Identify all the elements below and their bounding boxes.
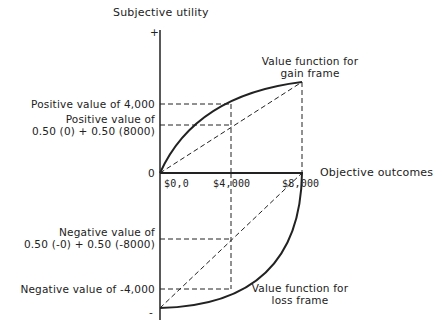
x-tick-0: $0,0 (164, 178, 189, 190)
label-negative-avg-1: Negative value of (59, 226, 155, 238)
label-positive-4000: Positive value of 4,000 (31, 98, 155, 110)
label-positive-avg-2: 0.50 (0) + 0.50 (8000) (32, 125, 155, 137)
x-tick-8000: $8,000 (282, 178, 319, 190)
gain-curve-label-2: gain frame (250, 67, 370, 79)
x-tick-4000: $4,000 (213, 178, 250, 190)
y-plus-sign: + (150, 26, 159, 38)
gain-curve-label-1: Value function for (250, 55, 370, 67)
loss-curve-label-2: loss frame (240, 294, 360, 306)
label-negative-avg-2: 0.50 (-0) + 0.50 (-8000) (24, 238, 155, 250)
loss-curve-label-1: Value function for (240, 282, 360, 294)
label-negative-4000: Negative value of -4,000 (20, 283, 155, 295)
origin-label: 0 (148, 167, 155, 179)
x-axis-label: Objective outcomes (320, 167, 433, 179)
label-positive-avg-1: Positive value of (66, 113, 155, 125)
y-axis-label: Subjective utility (113, 7, 209, 19)
y-minus-sign: - (149, 306, 153, 318)
reference-lines (160, 82, 302, 308)
